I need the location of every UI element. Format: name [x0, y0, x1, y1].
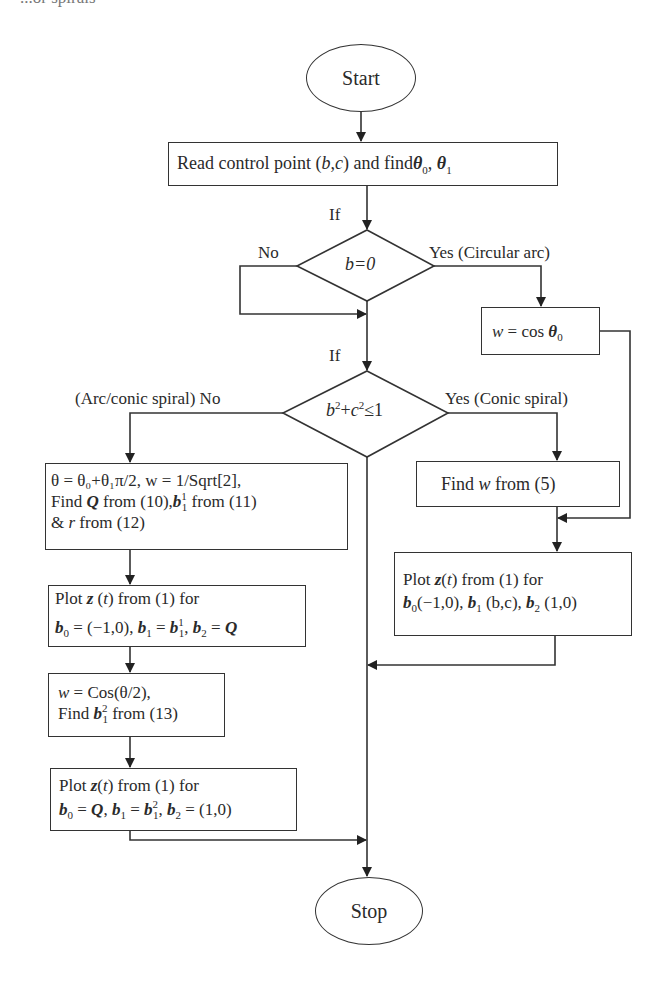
var-theta1: θ: [437, 153, 446, 173]
find-r-line: & r from (12): [51, 512, 347, 533]
var-w: w: [479, 474, 491, 494]
from-12-text: from (12): [75, 513, 145, 532]
if-label-1: If: [329, 205, 340, 225]
stop-label: Stop: [351, 900, 388, 923]
plot-arc1-line2: b0 = (−1,0), b1 = b11, b2 = Q: [55, 617, 305, 638]
var-w: w: [58, 683, 69, 702]
var-Q: Q: [91, 800, 103, 819]
w-cos-line: w = Cos(θ/2),: [58, 682, 224, 703]
b2-value: (1,0): [540, 593, 577, 612]
from-1-for-text: ) from (1) for: [452, 570, 543, 589]
from-1-for-text: ) from (1) for: [108, 776, 199, 795]
start-label: Start: [342, 67, 380, 90]
sub-1: 1: [446, 164, 452, 176]
from-11-text: from (11): [187, 492, 256, 511]
from-10-text: from (10),: [99, 492, 173, 511]
var-Q: Q: [86, 492, 98, 511]
plot-conic-spiral-box: Plot z(t) from (1) for b0(−1,0), b1 (b,c…: [394, 552, 632, 636]
from-5-text: from (5): [491, 474, 556, 494]
equals: =: [152, 618, 170, 637]
comma: ,: [103, 800, 112, 819]
comma: ,: [158, 800, 167, 819]
cos-theta-half: = Cos(θ/2),: [69, 683, 150, 702]
read-control-point-box: Read control point (b,c) and findθ0, θ1: [168, 142, 558, 186]
decision2-no-label: (Arc/conic spiral) No: [75, 389, 220, 409]
var-Q: Q: [225, 618, 237, 637]
var-c: c: [335, 153, 343, 173]
b1-value: (b,c),: [482, 593, 526, 612]
equals: =: [73, 800, 91, 819]
var-b: b: [403, 593, 412, 612]
arc-setup-box: θ = θ₀+θ₁π/2, w = 1/Sqrt[2], Find Q from…: [45, 463, 348, 550]
plot-conic-line2: b0(−1,0), b1 (b,c), b2 (1,0): [403, 592, 631, 613]
ampersand-text: &: [51, 513, 68, 532]
plot-conic-line1: Plot z(t) from (1) for: [403, 569, 631, 590]
plot-text: Plot: [55, 589, 87, 608]
var-theta0: θ: [548, 322, 557, 341]
le-1: ≤1: [364, 400, 383, 420]
if-label-2: If: [329, 346, 340, 366]
read-text-prefix: Read control point (: [177, 153, 321, 173]
var-c: c: [351, 400, 359, 420]
var-b: b: [326, 400, 335, 420]
decision1-yes-label: Yes (Circular arc): [429, 243, 550, 263]
find-q-line: Find Q from (10),b11 from (11): [51, 491, 347, 512]
var-theta0: θ: [413, 153, 422, 173]
from-13-text: from (13): [108, 704, 178, 723]
decision-b-equals-0: b=0: [345, 254, 375, 275]
arc-w-cos-box: w = Cos(θ/2), Find b21 from (13): [48, 673, 225, 737]
circular-arc-w-box: w = cos θ0: [481, 307, 600, 355]
plot-arc-second-box: Plot z(t) from (1) for b0 = Q, b1 = b21,…: [50, 768, 297, 831]
find-w-box: Find w from (5): [416, 461, 620, 507]
paren-open: (: [93, 589, 103, 608]
theta-w-formula: θ = θ₀+θ₁π/2, w = 1/Sqrt[2],: [51, 470, 347, 491]
sub-0: 0: [557, 331, 563, 343]
var-b: b: [468, 593, 477, 612]
plot-arc2-line1: Plot z(t) from (1) for: [59, 775, 296, 796]
b2-value: = (1,0): [181, 800, 232, 819]
var-b: b: [59, 800, 68, 819]
plot-arc1-line1: Plot z (t) from (1) for: [55, 588, 305, 609]
decision2-yes-label: Yes (Conic spiral): [445, 389, 568, 409]
decision1-no-label: No: [258, 243, 279, 263]
var-b: b: [55, 618, 64, 637]
plot-arc-first-box: Plot z (t) from (1) for b0 = (−1,0), b1 …: [48, 585, 306, 647]
plot-arc2-line2: b0 = Q, b1 = b21, b2 = (1,0): [59, 799, 296, 820]
cos-text: = cos: [503, 322, 548, 341]
from-1-for-text: ) from (1) for: [108, 589, 199, 608]
decision-b2-c2-le-1: b2+c2≤1: [326, 400, 383, 421]
stop-terminal: Stop: [315, 877, 423, 945]
plot-text: Plot: [403, 570, 435, 589]
find-text: Find: [51, 492, 86, 511]
var-b: b: [526, 593, 535, 612]
comma: ,: [184, 618, 193, 637]
equals: =: [207, 618, 225, 637]
b0-value: = (−1,0),: [69, 618, 138, 637]
find-text: Find: [441, 474, 479, 494]
read-text-mid: ) and find: [343, 153, 413, 173]
start-terminal: Start: [306, 44, 416, 112]
plus: +: [341, 400, 351, 420]
read-sep: ,: [428, 153, 437, 173]
find-b12-line: Find b21 from (13): [58, 703, 224, 724]
equals: =: [126, 800, 144, 819]
plot-text: Plot: [59, 776, 91, 795]
var-w: w: [492, 322, 503, 341]
var-b: b: [138, 618, 147, 637]
var-b: b: [93, 704, 102, 723]
find-text: Find: [58, 704, 93, 723]
b0-value: (−1,0),: [417, 593, 468, 612]
